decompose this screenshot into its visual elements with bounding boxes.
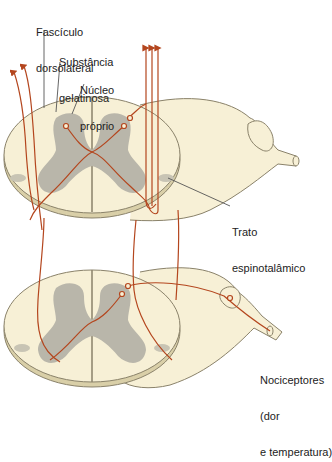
label-trato-espinotalamico: Trato espinotalâmico: [232, 202, 305, 286]
label-nucleo-proprio: Núcleo próprio: [80, 60, 114, 144]
label-nociceptores: Nociceptores (dor e temperatura): [260, 350, 332, 462]
